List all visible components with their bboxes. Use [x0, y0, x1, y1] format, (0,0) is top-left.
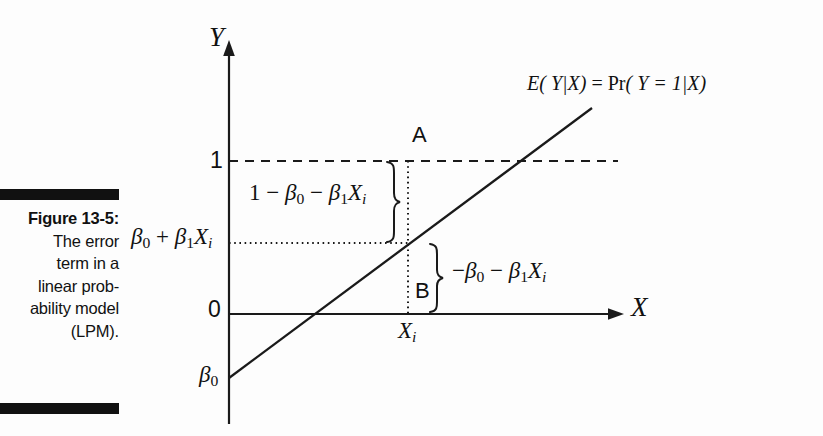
- upper-segment-label: 1 − β0 − β1Xi: [249, 180, 366, 208]
- upper-seg-one: 1: [249, 180, 261, 205]
- lower-segment-label: −β0 − β1Xi: [452, 258, 546, 286]
- equation-rhs-args: ( Y = 1|X): [625, 72, 706, 94]
- fitted-beta0: β0: [131, 224, 150, 249]
- y-axis: [223, 40, 235, 424]
- x-point-label: Xi: [398, 318, 416, 346]
- equation-label: E( Y|X) = Pr( Y = 1|X): [527, 72, 706, 95]
- upper-seg-minus-2: −: [310, 180, 323, 205]
- point-label-b: B: [415, 278, 430, 304]
- lower-seg-minus-2: −: [490, 258, 503, 283]
- y-tick-zero: 0: [208, 296, 221, 323]
- figure-page: Figure 13-5: The error term in a linear …: [0, 0, 823, 436]
- brace-upper: [387, 162, 400, 242]
- fitted-plus: +: [156, 224, 169, 249]
- lpm-figure-graphic: [0, 0, 823, 436]
- point-label-a: A: [412, 122, 427, 148]
- upper-seg-beta0: β0: [285, 180, 304, 205]
- equation-equals: =: [586, 72, 607, 94]
- equation-rhs-function: Pr: [608, 72, 626, 94]
- equation-lhs-args: ( Y|X): [539, 72, 586, 94]
- upper-seg-beta1x: β1Xi: [329, 180, 367, 205]
- lower-seg-beta0: β0: [465, 258, 484, 283]
- x-axis: [229, 308, 624, 319]
- lower-seg-minus-1: −: [452, 258, 465, 283]
- lower-seg-beta1x: β1Xi: [509, 258, 547, 283]
- intercept-label: β0: [199, 362, 218, 390]
- y-tick-one: 1: [210, 147, 223, 174]
- fitted-value-axis-label: β0 + β1Xi: [131, 224, 212, 252]
- upper-seg-minus-1: −: [266, 180, 279, 205]
- fitted-beta1x: β1Xi: [175, 224, 213, 249]
- equation-lhs-function: E: [527, 72, 539, 94]
- brace-lower: [430, 244, 443, 312]
- x-axis-label: X: [631, 292, 648, 323]
- y-axis-label: Y: [209, 22, 224, 53]
